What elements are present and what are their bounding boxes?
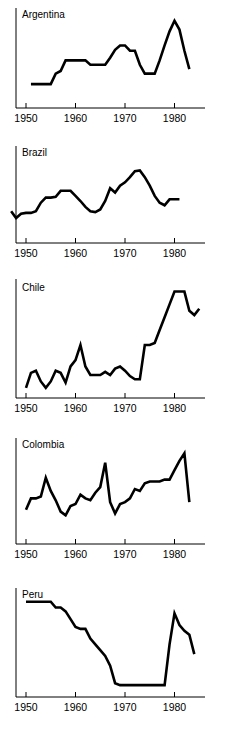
x-tick-label-chile-1950: 1950 [14, 402, 38, 414]
panel-title-chile: Chile [22, 282, 45, 293]
x-tick-label-peru-1950: 1950 [14, 701, 38, 713]
series-line-colombia [26, 453, 189, 515]
x-tick-label-brazil-1970: 1970 [113, 247, 137, 259]
x-tick-label-colombia-1970: 1970 [113, 548, 137, 560]
x-tick-label-colombia-1960: 1960 [64, 548, 88, 560]
series-line-brazil [11, 170, 179, 218]
panel-title-colombia: Colombia [22, 439, 65, 450]
chart-svg-chile: 1950196019701980Chile [0, 275, 228, 428]
x-tick-label-peru-1960: 1960 [64, 701, 88, 713]
x-tick-label-chile-1970: 1970 [113, 402, 137, 414]
chart-svg-brazil: 1950196019701980Brazil [0, 140, 228, 275]
chart-panel-colombia: 1950196019701980Colombia [0, 428, 228, 582]
x-tick-label-chile-1960: 1960 [64, 402, 88, 414]
x-tick-label-brazil-1950: 1950 [14, 247, 38, 259]
chart-panel-chile: 1950196019701980Chile [0, 275, 228, 428]
x-tick-label-argentina-1950: 1950 [14, 112, 38, 124]
x-tick-label-argentina-1960: 1960 [64, 112, 88, 124]
chart-svg-colombia: 1950196019701980Colombia [0, 428, 228, 582]
panel-title-brazil: Brazil [22, 147, 47, 158]
x-tick-label-chile-1980: 1980 [163, 402, 187, 414]
series-line-argentina [31, 21, 189, 84]
small-multiples-figure: 1950196019701980Argentina 19501960197019… [0, 0, 228, 735]
chart-panel-brazil: 1950196019701980Brazil [0, 140, 228, 275]
chart-svg-argentina: 1950196019701980Argentina [0, 0, 228, 140]
chart-svg-peru: 1950196019701980Peru [0, 582, 228, 735]
panel-title-argentina: Argentina [22, 9, 65, 20]
chart-panel-argentina: 1950196019701980Argentina [0, 0, 228, 140]
x-tick-label-argentina-1970: 1970 [113, 112, 137, 124]
x-tick-label-peru-1970: 1970 [113, 701, 137, 713]
x-tick-label-peru-1980: 1980 [163, 701, 187, 713]
x-tick-label-brazil-1980: 1980 [163, 247, 187, 259]
x-tick-label-argentina-1980: 1980 [163, 112, 187, 124]
x-tick-label-colombia-1980: 1980 [163, 548, 187, 560]
series-line-peru [26, 602, 194, 685]
x-tick-label-colombia-1950: 1950 [14, 548, 38, 560]
panel-title-peru: Peru [22, 589, 43, 600]
chart-panel-peru: 1950196019701980Peru [0, 582, 228, 735]
series-line-chile [26, 292, 199, 388]
x-tick-label-brazil-1960: 1960 [64, 247, 88, 259]
